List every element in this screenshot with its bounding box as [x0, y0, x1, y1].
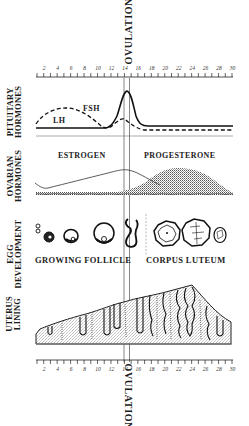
secondary-follicle-icon	[64, 230, 78, 243]
uterus-lining-label: UTERUS LINING	[5, 289, 21, 339]
day-tick-label: 20	[163, 366, 169, 372]
day-tick-label: 22	[176, 366, 182, 372]
ovulation-label-top: OVULATION	[123, 5, 134, 65]
uterus-label-line2: LINING	[13, 289, 21, 339]
primordial-follicle-icon	[36, 224, 40, 233]
top-day-axis: 24681012141618202224262830	[36, 65, 236, 77]
day-tick-label: 10	[95, 366, 101, 372]
corpus-albicans-icon	[214, 228, 226, 243]
uterus-lining-illustration	[36, 285, 232, 344]
day-tick-label: 12	[109, 65, 115, 71]
day-tick-label: 16	[136, 65, 142, 71]
ruptured-follicle-icon	[126, 219, 138, 247]
day-tick-label: 8	[83, 65, 86, 71]
ovarian-hormones-chart	[35, 168, 233, 195]
day-tick-label: 18	[149, 65, 155, 71]
day-tick-label: 30	[229, 366, 236, 372]
ovulation-label-bottom: OVULATION	[123, 364, 134, 424]
day-tick-label: 14	[122, 65, 128, 71]
pituitary-hormones-label: PITUITARY HORMONES	[6, 82, 22, 142]
primary-follicle-icon	[44, 232, 54, 242]
day-tick-label: 16	[136, 366, 142, 372]
day-tick-label: 12	[109, 366, 115, 372]
lh-curve	[36, 91, 233, 128]
ovarian-hormones-label: OVARIAN HORMONES	[6, 146, 22, 206]
egg-development-label: EGG DEVELOPMENT	[6, 218, 22, 290]
day-tick-label: 6	[70, 65, 73, 71]
progesterone-label: PROGESTERONE	[144, 151, 215, 160]
day-tick-label: 26	[203, 65, 209, 71]
egg-development-illustrations	[36, 214, 226, 255]
day-tick-label: 4	[56, 366, 59, 372]
day-tick-label: 28	[216, 65, 222, 71]
corpus-luteum-icon-1	[154, 221, 180, 246]
day-tick-label: 2	[43, 65, 46, 71]
graafian-follicle-icon	[94, 223, 114, 243]
corpus-luteum-label: CORPUS LUTEUM	[146, 255, 226, 265]
day-tick-label: 8	[83, 366, 86, 372]
fsh-label: FSH	[83, 104, 100, 113]
pituitary-label-line2: HORMONES	[14, 82, 22, 142]
day-tick-label: 18	[149, 366, 155, 372]
bottom-day-axis: 24681012141618202224262830	[36, 360, 236, 372]
day-tick-label: 2	[43, 366, 46, 372]
day-tick-label: 28	[216, 366, 222, 372]
ovarian-label-line2: HORMONES	[14, 146, 22, 206]
day-tick-label: 10	[95, 65, 101, 71]
day-tick-label: 30	[229, 65, 236, 71]
pituitary-hormones-chart	[36, 91, 233, 136]
endometrium-area	[36, 285, 231, 344]
day-tick-label: 22	[176, 65, 182, 71]
day-tick-label: 20	[163, 65, 169, 71]
estrogen-label: ESTROGEN	[58, 151, 106, 160]
day-tick-label: 24	[189, 65, 195, 71]
egg-label-line2: DEVELOPMENT	[14, 218, 22, 290]
lh-label: LH	[53, 116, 65, 125]
day-tick-label: 24	[189, 366, 195, 372]
day-tick-label: 6	[70, 366, 73, 372]
day-tick-label: 26	[203, 366, 209, 372]
corpus-luteum-icon-2	[182, 219, 210, 246]
growing-follicle-label: GROWING FOLLICLE	[35, 255, 131, 265]
day-tick-label: 4	[56, 65, 59, 71]
